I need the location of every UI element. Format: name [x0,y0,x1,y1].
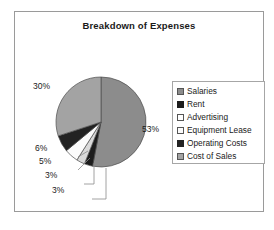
pie-label-operating-costs: 6% [35,143,47,153]
legend-swatch-icon [177,114,184,121]
legend-swatch-icon [177,153,184,160]
legend-swatch-icon [177,101,184,108]
legend-item-label: Cost of Sales [187,152,236,160]
pie-label-advertising: 3% [45,170,57,180]
pie-label-rent: 3% [52,185,64,195]
legend-item-label: Advertising [187,113,228,121]
legend-item-label: Rent [187,100,205,108]
legend-swatch-icon [177,140,184,147]
legend-item-operating-costs[interactable]: Operating Costs [177,137,264,150]
chart-canvas: Breakdown of Expenses 53% 30% 6% 5% 3% 3… [0,0,274,230]
chart-legend: SalariesRentAdvertisingEquipment LeaseOp… [172,81,265,164]
legend-item-rent[interactable]: Rent [177,98,264,111]
legend-item-label: Operating Costs [187,139,247,147]
legend-item-label: Equipment Lease [187,126,252,134]
legend-item-equipment-lease[interactable]: Equipment Lease [177,124,264,137]
legend-item-label: Salaries [187,87,217,95]
legend-item-advertising[interactable]: Advertising [177,111,264,124]
pie-label-cost-of-sales: 30% [33,81,50,91]
pie-label-salaries: 53% [142,124,159,134]
legend-item-salaries[interactable]: Salaries [177,85,264,98]
pie-slice-group [56,77,146,167]
legend-item-cost-of-sales[interactable]: Cost of Sales [177,150,264,163]
legend-swatch-icon [177,127,184,134]
legend-swatch-icon [177,88,184,95]
pie-label-equipment-lease: 5% [39,156,51,166]
